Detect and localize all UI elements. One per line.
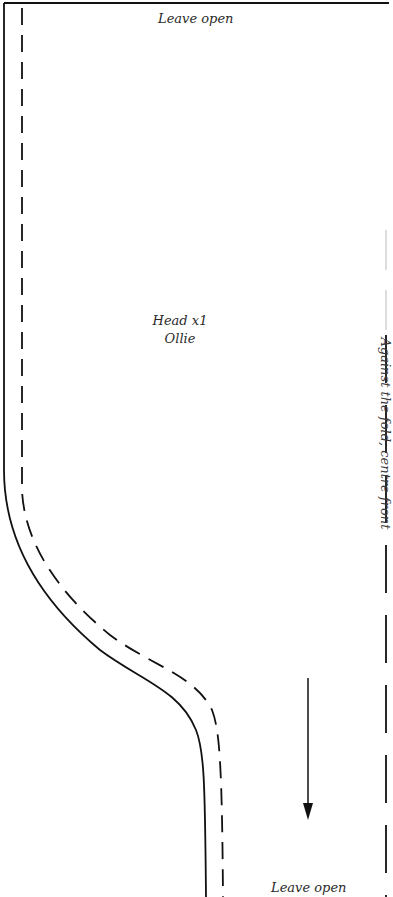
piece-name: Head x1 [140, 312, 220, 330]
piece-character: Ollie [140, 330, 220, 348]
fold-note: Against the fold, centre front [378, 338, 393, 498]
grainline-arrow-icon [303, 678, 313, 820]
bottom-edge-note: Leave open [271, 880, 346, 895]
stitch-line [22, 8, 223, 897]
top-edge-note: Leave open [158, 11, 233, 26]
cutting-line [4, 3, 206, 897]
piece-label: Head x1 Ollie [140, 312, 220, 348]
